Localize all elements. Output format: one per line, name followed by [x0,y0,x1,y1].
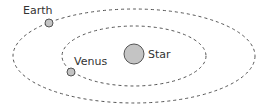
orbit-diagram: Star Earth Venus [0,0,267,112]
earth-planet-icon [45,19,53,27]
star-icon [124,44,144,64]
earth-label: Earth [23,4,53,17]
star-label: Star [148,48,171,61]
venus-label: Venus [74,55,107,68]
venus-planet-icon [67,68,75,76]
